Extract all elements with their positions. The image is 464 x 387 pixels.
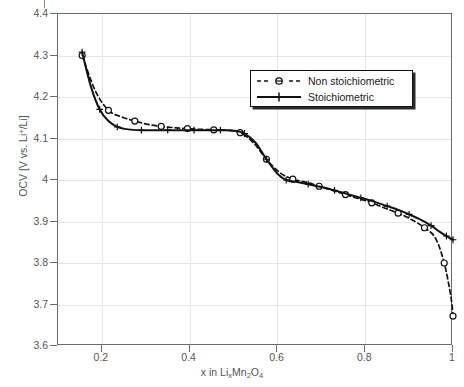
chart-legend: Non stoichiometric Stoichiometric xyxy=(250,70,413,107)
y-axis-title-superscript: + xyxy=(17,129,26,133)
legend-item-non-stoichiometric: Non stoichiometric xyxy=(256,73,407,89)
legend-marker-solid-plus xyxy=(256,91,302,103)
y-tick-label: 3.6 xyxy=(0,339,48,351)
data-point-marker xyxy=(331,187,338,194)
x-tick-label: 0.6 xyxy=(269,351,284,363)
legend-label-stoichiometric: Stoichiometric xyxy=(308,91,374,103)
data-point-marker xyxy=(132,118,138,124)
x-tick-label: 0.8 xyxy=(357,351,372,363)
y-tick-mark xyxy=(50,179,57,180)
y-tick-mark xyxy=(50,221,57,222)
y-tick-mark xyxy=(50,13,57,14)
legend-marker-dashed-circle xyxy=(256,75,302,87)
x-axis-title-c: O xyxy=(251,366,259,378)
x-axis-title-b: Mn xyxy=(232,366,247,378)
data-point-marker xyxy=(105,107,111,113)
data-point-marker xyxy=(114,123,121,130)
y-tick-mark xyxy=(50,304,57,305)
data-point-marker xyxy=(421,225,427,231)
data-point-marker xyxy=(138,127,145,134)
x-tick-label: 0.2 xyxy=(94,351,109,363)
y-tick-mark xyxy=(50,138,57,139)
data-point-marker xyxy=(441,260,447,266)
x-tick-label: 0.4 xyxy=(181,351,196,363)
chart-figure: 4.44.34.24.143.93.83.73.6 0.20.40.60.81 … xyxy=(0,0,464,387)
y-axis-title-prefix: OCV [V vs. Li xyxy=(17,134,29,197)
legend-item-stoichiometric: Stoichiometric xyxy=(256,89,407,105)
y-tick-mark xyxy=(50,345,57,346)
data-point-marker xyxy=(217,127,224,134)
plot-area xyxy=(57,13,452,345)
y-axis-title-suffix: /Li] xyxy=(17,115,29,129)
y-tick-mark xyxy=(50,96,57,97)
y-tick-label: 3.8 xyxy=(0,256,48,268)
y-tick-mark xyxy=(50,262,57,263)
x-tick-label: 1 xyxy=(449,351,455,363)
y-tick-mark xyxy=(50,55,57,56)
x-axis-title: x in LixMn2O4 xyxy=(0,366,464,380)
data-point-marker xyxy=(158,123,164,129)
y-tick-label: 3.7 xyxy=(0,298,48,310)
x-axis-title-sub-4: 4 xyxy=(259,371,263,380)
data-series-layer xyxy=(58,14,453,346)
y-axis-title: OCV [V vs. Li+/Li] xyxy=(17,81,29,231)
data-point-marker xyxy=(450,313,456,319)
data-point-marker xyxy=(191,127,198,134)
y-tick-label: 4.3 xyxy=(0,49,48,61)
y-tick-label: 4.4 xyxy=(0,7,48,19)
x-axis-title-a: x in Li xyxy=(201,366,228,378)
legend-label-non-stoichiometric: Non stoichiometric xyxy=(308,75,394,87)
